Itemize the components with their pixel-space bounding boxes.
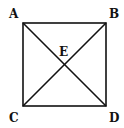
label-a: A	[8, 7, 19, 21]
label-c: C	[9, 111, 19, 125]
label-b: B	[109, 7, 119, 21]
geometry-diagram: A B E C D	[0, 0, 124, 128]
label-d: D	[109, 111, 119, 125]
label-e: E	[59, 45, 68, 59]
